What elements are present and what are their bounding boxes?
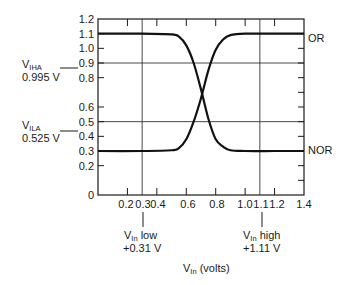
y-tick-label: 0.9 [79, 57, 94, 69]
y-tick-label: 0.5 [79, 116, 94, 128]
x-tick-label: 1.1 [253, 198, 268, 210]
data-series [98, 34, 304, 151]
y-tick-label: 0.2 [79, 160, 94, 172]
y-tick-label: 0.3 [79, 145, 94, 157]
x-tick-label: 0.6 [180, 198, 195, 210]
x-tick-label: 1.4 [296, 198, 311, 210]
or-series-label: OR [308, 32, 325, 44]
reference-lines [98, 19, 304, 195]
vila-value: 0.525 V [22, 132, 61, 144]
series-nor-curve [98, 34, 304, 151]
y-tick-label: 1.1 [79, 28, 94, 40]
x-tick-label: 1.0 [237, 198, 252, 210]
x-tick-label: 1.2 [269, 198, 284, 210]
y-tick-label: 1.2 [79, 13, 94, 25]
x-tick-label: 0.3 [135, 198, 150, 210]
y-tick-label: 0.4 [79, 130, 94, 142]
vin-low-label: VIn low [124, 229, 157, 243]
x-tick-label: 0.4 [150, 198, 165, 210]
vila-label: VILA [22, 119, 41, 133]
y-tick-label: 1.0 [79, 42, 94, 54]
plot-border [98, 19, 304, 195]
y-tick-label: 0 [88, 189, 94, 201]
viha-label: VIHA [22, 58, 42, 72]
vin-high-value: +1.11 V [243, 242, 281, 254]
x-tick-label: 0.8 [209, 198, 224, 210]
plot-frame [98, 19, 304, 195]
axis-ticks: 00.20.30.40.50.60.80.91.01.11.20.20.30.4… [79, 13, 312, 210]
y-tick-label: 0.6 [79, 101, 94, 113]
x-tick-label: 0.2 [118, 198, 133, 210]
viha-value: 0.995 V [22, 71, 61, 83]
vin-low-value: +0.31 V [123, 242, 162, 254]
nor-series-label: NOR [308, 144, 333, 156]
transfer-characteristic-chart: 00.20.30.40.50.60.80.91.01.11.20.20.30.4… [0, 0, 353, 285]
x-axis-title: VIn (volts) [183, 262, 230, 276]
vin-high-label: VIn high [243, 229, 280, 243]
y-tick-label: 0.8 [79, 72, 94, 84]
